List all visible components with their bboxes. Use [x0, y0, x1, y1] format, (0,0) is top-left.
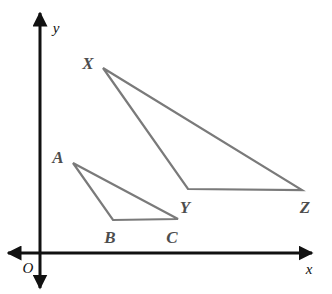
geometry-figure: A B C X Y Z x y O [0, 0, 332, 294]
vertex-label-c: C [166, 229, 177, 246]
vertex-label-b: B [104, 229, 115, 246]
vertex-label-z: Z [300, 199, 310, 216]
vertex-label-x: X [82, 55, 93, 72]
triangle-abc-shape [73, 163, 178, 220]
vertex-label-a: A [52, 149, 63, 166]
triangle-xyz-shape [103, 68, 302, 190]
x-axis-label: x [306, 262, 313, 277]
origin-label: O [23, 261, 34, 276]
y-axis-label: y [53, 21, 60, 36]
vertex-label-y: Y [180, 199, 190, 216]
geometry-canvas [0, 0, 332, 294]
